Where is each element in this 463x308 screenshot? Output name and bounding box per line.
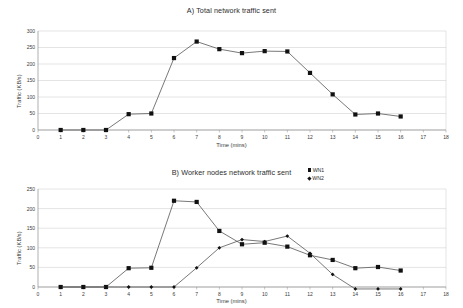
svg-text:50: 50 [29, 264, 35, 270]
svg-text:100: 100 [27, 245, 36, 251]
svg-text:14: 14 [353, 291, 359, 297]
svg-text:14: 14 [353, 134, 359, 140]
svg-text:9: 9 [241, 134, 244, 140]
svg-text:4: 4 [127, 134, 130, 140]
svg-text:150: 150 [27, 225, 36, 231]
svg-text:7: 7 [195, 134, 198, 140]
svg-text:2: 2 [82, 291, 85, 297]
svg-text:18: 18 [443, 291, 449, 297]
legend-item-wn1: WN1 [308, 166, 324, 174]
svg-text:50: 50 [29, 110, 35, 116]
legend-marker-square-icon [308, 168, 311, 171]
svg-text:15: 15 [375, 134, 381, 140]
svg-text:4: 4 [127, 291, 130, 297]
svg-text:12: 12 [307, 291, 313, 297]
svg-text:17: 17 [421, 134, 427, 140]
svg-text:11: 11 [285, 291, 290, 297]
chart-b-legend: WN1 WN2 [308, 166, 324, 182]
svg-text:100: 100 [27, 94, 36, 100]
svg-text:7: 7 [195, 291, 198, 297]
chart-a-plot: 0501001502002503000123456789101112131415… [0, 0, 463, 155]
svg-text:9: 9 [241, 291, 244, 297]
svg-text:2: 2 [82, 134, 85, 140]
chart-panel-a: A) Total network traffic sent Traffic (K… [0, 0, 463, 155]
svg-text:8: 8 [218, 134, 221, 140]
svg-text:3: 3 [105, 291, 108, 297]
svg-text:13: 13 [330, 291, 336, 297]
legend-label-wn2: WN2 [312, 174, 324, 182]
svg-text:15: 15 [375, 291, 381, 297]
svg-text:3: 3 [105, 134, 108, 140]
svg-text:18: 18 [443, 134, 449, 140]
svg-text:200: 200 [27, 206, 36, 212]
svg-text:250: 250 [27, 186, 36, 192]
svg-text:0: 0 [37, 291, 40, 297]
svg-text:16: 16 [398, 291, 404, 297]
chart-panel-b: B) Worker nodes network traffic sent Tra… [0, 155, 463, 308]
svg-text:300: 300 [27, 28, 36, 34]
svg-text:12: 12 [307, 134, 313, 140]
svg-text:1: 1 [59, 134, 62, 140]
svg-text:150: 150 [27, 77, 36, 83]
svg-text:10: 10 [262, 291, 268, 297]
legend-item-wn2: WN2 [308, 174, 324, 182]
svg-text:17: 17 [421, 291, 427, 297]
legend-marker-diamond-icon [307, 176, 311, 180]
svg-text:8: 8 [218, 291, 221, 297]
svg-text:11: 11 [285, 134, 290, 140]
legend-label-wn1: WN1 [313, 166, 325, 174]
svg-text:13: 13 [330, 134, 336, 140]
svg-text:5: 5 [150, 291, 153, 297]
svg-text:6: 6 [173, 134, 176, 140]
svg-text:10: 10 [262, 134, 268, 140]
svg-text:250: 250 [27, 44, 36, 50]
svg-text:5: 5 [150, 134, 153, 140]
svg-text:0: 0 [37, 134, 40, 140]
svg-text:1: 1 [59, 291, 62, 297]
svg-text:0: 0 [32, 127, 35, 133]
chart-b-x-axis-label: Time (mins) [0, 298, 463, 304]
svg-text:6: 6 [173, 291, 176, 297]
svg-text:0: 0 [32, 284, 35, 290]
svg-text:200: 200 [27, 61, 36, 67]
svg-text:16: 16 [398, 134, 404, 140]
chart-b-plot: 0501001502002500123456789101112131415161… [0, 155, 463, 308]
chart-a-x-axis-label: Time (mins) [0, 142, 463, 148]
